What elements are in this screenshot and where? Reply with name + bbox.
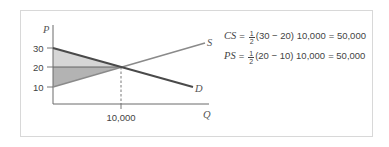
demand-label: D	[194, 83, 203, 94]
ps-equals: =	[239, 46, 245, 66]
y-tick-label-20: 20	[33, 62, 44, 73]
cs-result: = 50,000	[329, 26, 366, 46]
cs-symbol: CS	[224, 26, 236, 46]
cs-fraction: 1 2	[249, 30, 255, 45]
cs-fraction-numerator: 1	[249, 30, 255, 38]
x-axis-label: Q	[203, 109, 211, 120]
ps-fraction: 1 2	[248, 50, 254, 65]
y-tick-label-30: 30	[33, 43, 44, 54]
ps-expression: (20 − 10) 10,000	[255, 46, 325, 66]
cs-expression: (30 − 20) 10,000	[256, 26, 326, 46]
ps-fraction-numerator: 1	[248, 50, 254, 58]
producer-surplus-equation: PS = 1 2 (20 − 10) 10,000 = 50,000	[224, 46, 369, 66]
cs-equals: =	[239, 26, 245, 46]
y-axis-label: P	[42, 24, 50, 35]
surplus-chart: P Q 30 20 10 10,000 S D	[0, 0, 389, 147]
y-tick-label-10: 10	[33, 82, 44, 93]
ps-symbol: PS	[224, 46, 236, 66]
ps-fraction-denominator: 2	[248, 58, 254, 65]
consumer-surplus-equation: CS = 1 2 (30 − 20) 10,000 = 50,000	[224, 26, 369, 46]
cs-fraction-denominator: 2	[249, 38, 255, 45]
supply-label: S	[207, 37, 213, 48]
ps-result: = 50,000	[328, 46, 365, 66]
x-tick-label-10000: 10,000	[106, 112, 135, 123]
surplus-equations: CS = 1 2 (30 − 20) 10,000 = 50,000 PS = …	[224, 26, 369, 66]
